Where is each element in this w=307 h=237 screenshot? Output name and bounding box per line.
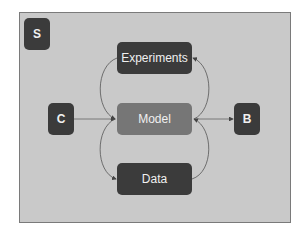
node-c: C xyxy=(48,103,74,135)
edge-data-to-model xyxy=(192,119,209,179)
node-c-label: C xyxy=(57,112,66,126)
node-model: Model xyxy=(117,103,192,135)
edge-experiments-to-model xyxy=(100,58,117,119)
edge-model-to-data xyxy=(100,119,116,179)
edge-model-to-experiments xyxy=(193,58,209,119)
node-model-label: Model xyxy=(138,112,171,126)
node-data-label: Data xyxy=(142,172,167,186)
node-s-label: S xyxy=(33,27,41,41)
node-b: B xyxy=(234,103,260,135)
node-experiments: Experiments xyxy=(117,42,192,74)
node-b-label: B xyxy=(243,112,252,126)
node-s: S xyxy=(24,18,50,50)
node-data: Data xyxy=(117,163,192,195)
node-experiments-label: Experiments xyxy=(121,51,188,65)
